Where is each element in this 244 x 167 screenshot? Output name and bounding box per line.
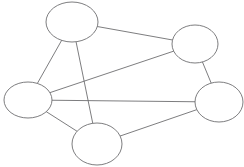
graph-edge — [202, 62, 211, 83]
graph-node-upper-right — [172, 25, 218, 63]
graph-node-right — [195, 82, 243, 122]
graph-canvas — [0, 0, 244, 167]
graph-edge — [76, 42, 93, 124]
graph-edge — [50, 51, 174, 93]
graph-edge — [52, 100, 195, 102]
graph-node-bottom — [72, 123, 122, 165]
graph-figure — [0, 0, 244, 167]
graph-edge — [37, 40, 61, 83]
graph-edge — [46, 112, 77, 132]
graph-edge — [120, 110, 197, 136]
graph-node-top — [46, 2, 98, 42]
graph-node-left — [4, 82, 52, 118]
node-layer — [4, 2, 243, 165]
graph-edge — [97, 27, 172, 40]
